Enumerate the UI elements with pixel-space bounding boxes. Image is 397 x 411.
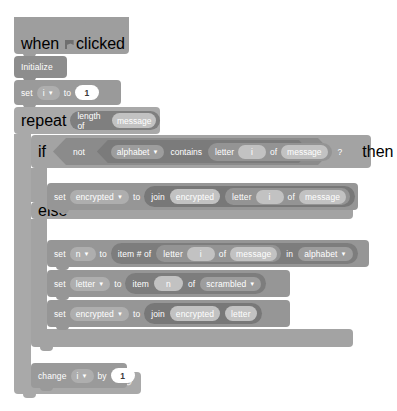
variable-encrypted[interactable]: encrypted xyxy=(170,189,220,204)
variable-i[interactable]: i xyxy=(238,145,266,159)
repeat-bottom-notch xyxy=(23,394,36,398)
value-input-1[interactable]: 1 xyxy=(111,368,135,383)
hat-when-label: when xyxy=(14,35,63,53)
if-branch-arm xyxy=(31,168,47,202)
set-label: set xyxy=(47,192,70,202)
variable-message[interactable]: message xyxy=(112,113,156,128)
of-label: of xyxy=(288,192,295,202)
hat-clicked-label: clicked xyxy=(72,35,129,53)
of-label: of xyxy=(219,249,226,259)
variable-dropdown-i[interactable]: i ▼ xyxy=(37,86,60,100)
chevron-down-icon: ▼ xyxy=(98,281,104,287)
list-dropdown-alphabet[interactable]: alphabet ▼ xyxy=(298,247,352,261)
by-label: by xyxy=(94,371,111,381)
then-label: then xyxy=(358,143,397,161)
chevron-down-icon: ▼ xyxy=(341,251,347,257)
in-label: in xyxy=(286,249,293,259)
block-set-n[interactable]: set n ▼ to item # of letter i of message… xyxy=(47,240,369,267)
chevron-down-icon: ▼ xyxy=(48,90,54,96)
of-label: of xyxy=(270,147,277,157)
chevron-down-icon: ▼ xyxy=(83,251,89,257)
set-label: set xyxy=(14,88,37,98)
set-label: set xyxy=(47,309,70,319)
hat-block-when-flag-clicked[interactable]: when clicked xyxy=(14,17,129,54)
to-label: to xyxy=(110,279,125,289)
block-set-encrypted-if[interactable]: set encrypted ▼ to join encrypted letter… xyxy=(47,183,358,210)
green-flag-icon xyxy=(65,40,70,49)
variable-i[interactable]: i xyxy=(256,190,284,204)
boolean-not[interactable]: not alphabet ▼ contains letter i of mess… xyxy=(53,138,342,165)
reporter-letter-of[interactable]: letter i of message xyxy=(225,188,350,205)
reporter-letter-of[interactable]: letter i of message xyxy=(156,245,281,262)
value-input-1[interactable]: 1 xyxy=(75,85,99,100)
to-label: to xyxy=(129,192,144,202)
if-bottom-notch xyxy=(40,347,53,351)
variable-i[interactable]: i xyxy=(187,247,215,261)
variable-dropdown-n[interactable]: n ▼ xyxy=(70,247,96,261)
join-label: join xyxy=(151,192,165,202)
of-label: of xyxy=(188,279,195,289)
set-label: set xyxy=(47,279,70,289)
repeat-left-arm xyxy=(14,134,31,372)
letter-label: letter xyxy=(232,192,252,202)
list-dropdown-alphabet[interactable]: alphabet ▼ xyxy=(111,145,165,159)
not-label: not xyxy=(73,147,85,157)
chevron-down-icon: ▼ xyxy=(249,281,255,287)
else-branch-arm xyxy=(31,219,47,329)
list-dropdown-scrambled[interactable]: scrambled ▼ xyxy=(200,277,261,291)
block-set-letter[interactable]: set letter ▼ to item n of scrambled ▼ xyxy=(47,270,290,297)
letter-label: letter xyxy=(215,147,234,157)
custom-block-initialize[interactable]: Initialize xyxy=(14,56,67,78)
reporter-item-number-of[interactable]: item # of letter i of message in alphabe… xyxy=(111,243,358,264)
variable-letter[interactable]: letter xyxy=(225,306,257,321)
variable-dropdown-encrypted[interactable]: encrypted ▼ xyxy=(70,307,129,321)
to-label: to xyxy=(96,249,111,259)
block-set-encrypted-else[interactable]: set encrypted ▼ to join encrypted letter xyxy=(47,300,290,327)
letter-label: letter xyxy=(163,249,183,259)
length-of-label: length of xyxy=(77,111,107,131)
item-num-of-label: item # of xyxy=(118,249,152,259)
variable-message[interactable]: message xyxy=(299,190,346,204)
variable-n[interactable]: n xyxy=(154,276,183,291)
variable-message[interactable]: message xyxy=(230,247,277,261)
variable-dropdown-encrypted[interactable]: encrypted ▼ xyxy=(70,190,129,204)
reporter-letter-of[interactable]: letter i of message xyxy=(208,143,332,161)
reporter-join[interactable]: join encrypted letter i of message xyxy=(144,186,355,207)
repeat-label: repeat xyxy=(14,112,70,130)
boolean-list-contains[interactable]: alphabet ▼ contains letter i of message … xyxy=(97,140,342,163)
reporter-item-of-list[interactable]: item n of scrambled ▼ xyxy=(125,273,266,294)
set-label: set xyxy=(47,249,70,259)
if-footer xyxy=(31,329,353,347)
variable-encrypted[interactable]: encrypted xyxy=(170,306,220,321)
reporter-join[interactable]: join encrypted letter xyxy=(144,303,261,324)
variable-dropdown-letter[interactable]: letter ▼ xyxy=(70,277,111,291)
block-set-i[interactable]: set i ▼ to 1 xyxy=(14,80,121,105)
chevron-down-icon: ▼ xyxy=(82,373,88,379)
variable-message[interactable]: message xyxy=(281,145,328,159)
change-label: change xyxy=(31,371,71,381)
to-label: to xyxy=(129,309,144,319)
initialize-label: Initialize xyxy=(14,62,57,72)
chevron-down-icon: ▼ xyxy=(117,311,123,317)
block-change-i[interactable]: change i ▼ by 1 xyxy=(31,363,127,388)
chevron-down-icon: ▼ xyxy=(117,194,123,200)
to-label: to xyxy=(60,88,75,98)
item-label: item xyxy=(132,279,148,289)
join-label: join xyxy=(151,309,165,319)
reporter-length-of[interactable]: length of message xyxy=(70,111,160,130)
question-mark-label: ? xyxy=(338,147,343,157)
contains-label: contains xyxy=(170,147,202,157)
if-label: if xyxy=(31,143,50,161)
variable-dropdown-i[interactable]: i ▼ xyxy=(71,369,94,383)
chevron-down-icon: ▼ xyxy=(152,149,158,155)
